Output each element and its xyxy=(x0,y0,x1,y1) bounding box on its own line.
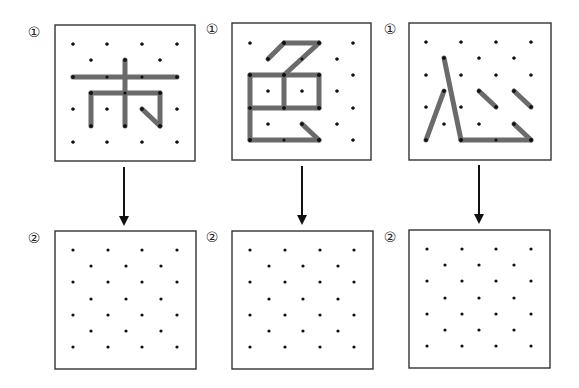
grid-dot xyxy=(158,58,161,61)
step-1-label: ① xyxy=(204,22,220,38)
grid-dot xyxy=(442,89,445,92)
grid-dot xyxy=(336,329,339,332)
grid-dot xyxy=(424,138,427,141)
grid-dot xyxy=(175,248,178,251)
grid-dot xyxy=(123,58,126,61)
grid-dot xyxy=(300,89,303,92)
grid-dot xyxy=(105,42,108,45)
grid-dot xyxy=(477,296,480,299)
grid-dot xyxy=(529,247,532,250)
grid-dot xyxy=(140,75,143,78)
grid-dot xyxy=(123,124,126,127)
grid-dot xyxy=(424,73,427,76)
grid-dot xyxy=(124,264,127,267)
grid-dot xyxy=(351,138,354,141)
grid-dot xyxy=(317,73,320,76)
grid-dot xyxy=(140,140,143,143)
grid-dot xyxy=(300,57,303,60)
grid-dot xyxy=(89,297,92,300)
grid-dot xyxy=(266,122,269,125)
grid-dot xyxy=(123,91,126,94)
grid-dot xyxy=(267,297,270,300)
grid-dot xyxy=(267,264,270,267)
grid-dot xyxy=(512,89,515,92)
step-1-label: ① xyxy=(382,22,398,38)
grid-dot xyxy=(175,140,178,143)
grid-dot xyxy=(140,107,143,110)
grid-dot xyxy=(248,280,251,283)
grid-dot xyxy=(335,122,338,125)
grid-dot xyxy=(460,312,463,315)
grid-dot xyxy=(352,280,355,283)
grid-dot xyxy=(529,40,532,43)
grid-dot xyxy=(512,56,515,59)
grid-dot xyxy=(477,122,480,125)
grid-dot xyxy=(443,328,446,331)
grid-dot xyxy=(248,138,251,141)
down-arrow-icon xyxy=(119,216,129,226)
step-2-label: ② xyxy=(204,230,220,246)
grid-dot xyxy=(158,124,161,127)
grid-dot xyxy=(529,344,532,347)
grid-dot xyxy=(71,75,74,78)
grid-dot xyxy=(105,75,108,78)
grid-dot xyxy=(443,296,446,299)
grid-dot xyxy=(175,107,178,110)
grid-dot xyxy=(140,280,143,283)
grid-dot xyxy=(89,124,92,127)
grid-dot xyxy=(71,313,74,316)
grid-dot xyxy=(477,56,480,59)
grid-dot xyxy=(159,329,162,332)
grid-dot xyxy=(443,263,446,266)
grid-dot xyxy=(494,40,497,43)
grid-dot xyxy=(283,313,286,316)
grid-dot xyxy=(460,247,463,250)
grid-dot xyxy=(351,73,354,76)
grid-dot xyxy=(425,247,428,250)
grid-dot xyxy=(140,313,143,316)
grid-dot xyxy=(512,122,515,125)
grid-dot xyxy=(336,264,339,267)
grid-dot xyxy=(318,280,321,283)
grid-dot xyxy=(106,248,109,251)
grid-dot xyxy=(318,248,321,251)
step-1-label: ① xyxy=(26,25,42,41)
grid-dot xyxy=(512,328,515,331)
grid-dot xyxy=(282,106,285,109)
grid-dot xyxy=(352,313,355,316)
grid-dot xyxy=(175,313,178,316)
grid-dot xyxy=(512,296,515,299)
grid-dot xyxy=(124,329,127,332)
grid-dot xyxy=(459,40,462,43)
grid-dot xyxy=(248,73,251,76)
grid-dot xyxy=(282,73,285,76)
grid-dot xyxy=(71,107,74,110)
grid-dot xyxy=(529,73,532,76)
grid-dot xyxy=(317,41,320,44)
grid-dot xyxy=(175,75,178,78)
grid-dot xyxy=(459,73,462,76)
grid-dot xyxy=(512,263,515,266)
grid-dot xyxy=(424,40,427,43)
grid-dot xyxy=(425,344,428,347)
grid-dot xyxy=(282,138,285,141)
grid-dot xyxy=(140,345,143,348)
grid-dot xyxy=(425,312,428,315)
character-panel-2 xyxy=(232,23,373,369)
grid-dot xyxy=(301,264,304,267)
grid-dot xyxy=(283,345,286,348)
grid-dot xyxy=(529,279,532,282)
down-arrow-icon xyxy=(474,214,484,224)
grid-dot xyxy=(89,329,92,332)
grid-dot xyxy=(317,138,320,141)
grid-dot xyxy=(71,345,74,348)
grid-dot xyxy=(352,345,355,348)
grid-dot xyxy=(106,280,109,283)
grid-dot xyxy=(442,56,445,59)
grid-dot xyxy=(318,313,321,316)
grid-dot xyxy=(460,279,463,282)
grid-dot xyxy=(494,344,497,347)
grid-dot xyxy=(424,105,427,108)
grid-dot xyxy=(494,279,497,282)
grid-dot xyxy=(175,280,178,283)
